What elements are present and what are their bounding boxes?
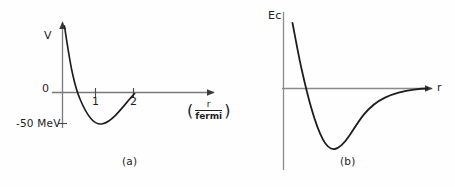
- unit-fraction: r fermi: [194, 100, 223, 121]
- panel-a-y-tick-label: -50 MeV: [16, 118, 61, 129]
- panel-b-x-axis-label: r: [437, 82, 442, 93]
- panel-b: [282, 12, 432, 170]
- unit-close-paren: ): [223, 103, 231, 119]
- figure-canvas: [0, 0, 455, 187]
- panel-b-caption: (b): [340, 156, 355, 167]
- panel-a-x-tick-label-1: 1: [92, 96, 99, 107]
- panel-a-caption: (a): [122, 156, 137, 167]
- unit-numerator: r: [207, 100, 211, 110]
- unit-open-paren: (: [186, 103, 194, 119]
- panel-b-y-axis-label: Ec: [268, 10, 281, 21]
- panel-b-potential-curve: [293, 23, 428, 149]
- panel-a-potential-curve: [65, 26, 135, 124]
- unit-denominator: fermi: [195, 111, 222, 121]
- panel-a-x-tick-label-2: 2: [130, 96, 137, 107]
- panel-a-origin-label: 0: [42, 83, 49, 94]
- panel-a-x-axis-unit: ( r fermi ): [186, 100, 231, 121]
- panel-a-y-axis-label: V: [44, 30, 52, 41]
- physics-figure: V 0 1 2 -50 MeV ( r fermi ) (a) Ec r (b): [0, 0, 455, 187]
